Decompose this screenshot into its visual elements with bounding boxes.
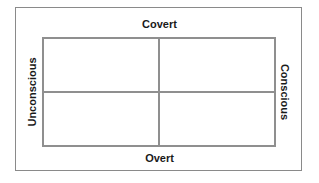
quadrant-bottom-right [159,92,274,145]
quadrant-top-right [159,39,274,92]
quadrant-grid [42,37,276,147]
label-conscious: Conscious [279,64,291,120]
label-overt: Overt [0,152,319,164]
label-covert: Covert [0,18,319,30]
label-unconscious: Unconscious [26,57,38,126]
quadrant-bottom-left [44,92,159,145]
quadrant-top-left [44,39,159,92]
